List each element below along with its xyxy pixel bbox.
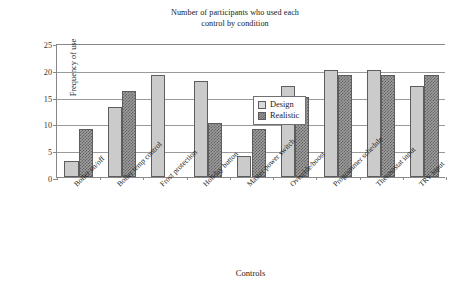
y-tick-label: 15	[44, 94, 52, 103]
bar-design	[237, 156, 251, 177]
bar-design	[194, 81, 208, 177]
x-tick-mark	[403, 177, 404, 180]
y-tick-mark	[53, 99, 57, 100]
y-tick-label: 0	[48, 175, 52, 184]
y-tick-mark	[53, 72, 57, 73]
legend-entry: Design	[258, 99, 299, 110]
chart-title-line-2: control by condition	[60, 19, 410, 30]
x-tick-mark	[446, 177, 447, 180]
x-tick-mark	[100, 177, 101, 180]
bar-design	[108, 107, 122, 177]
legend-swatch-design	[258, 101, 266, 109]
y-axis-label: Frequency of use	[69, 8, 78, 128]
y-tick-mark	[53, 125, 57, 126]
plot-area: Frequency of use 0510152025 DesignRealis…	[56, 44, 445, 178]
chart-legend: DesignRealistic	[253, 96, 306, 125]
y-tick-label: 25	[44, 41, 52, 50]
y-tick-label: 10	[44, 121, 52, 130]
bar-design	[367, 70, 381, 177]
gridline	[57, 72, 445, 73]
bar-design	[324, 70, 338, 177]
legend-label: Realistic	[270, 111, 299, 120]
bar-design	[151, 75, 165, 177]
bar-design	[64, 161, 78, 177]
y-tick-label: 5	[48, 148, 52, 157]
x-tick-mark	[187, 177, 188, 180]
bar-design	[410, 86, 424, 177]
legend-entry: Realistic	[258, 110, 299, 121]
x-tick-mark	[143, 177, 144, 180]
legend-label: Design	[270, 100, 294, 109]
x-tick-mark	[230, 177, 231, 180]
y-tick-mark	[53, 152, 57, 153]
x-tick-mark	[316, 177, 317, 180]
legend-swatch-realistic	[258, 112, 266, 120]
chart-figure: Number of participants who used each con…	[0, 0, 467, 296]
x-axis-label: Controls	[56, 268, 445, 278]
chart-title-line-1: Number of participants who used each	[60, 8, 410, 19]
x-tick-mark	[273, 177, 274, 180]
x-tick-mark	[57, 177, 58, 180]
y-tick-label: 20	[44, 67, 52, 76]
chart-title: Number of participants who used each con…	[60, 8, 410, 29]
y-tick-mark	[53, 45, 57, 46]
x-tick-mark	[360, 177, 361, 180]
